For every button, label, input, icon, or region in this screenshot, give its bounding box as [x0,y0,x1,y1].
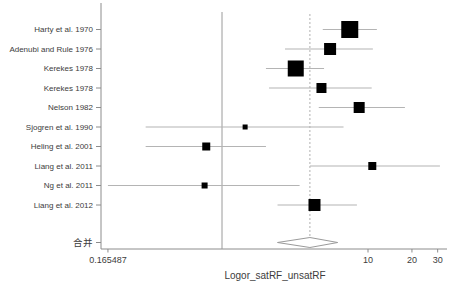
forest-plot-svg: 0.165487102030Logor_satRF_unsatRFHarty e… [0,0,454,286]
effect-size-square [341,21,358,38]
x-tick-label: 0.165487 [89,255,127,265]
study-label: Liang et al. 2011 [34,162,93,171]
x-tick-label: 20 [407,255,417,265]
study-label: Kerekes 1978 [44,64,94,73]
effect-size-square [368,162,376,170]
effect-size-square [316,83,326,93]
x-tick-label: 10 [363,255,373,265]
study-label: Heling et al. 2001 [31,142,94,151]
forest-plot: 0.165487102030Logor_satRF_unsatRFHarty e… [0,0,454,286]
effect-size-square [354,102,365,113]
effect-size-square [308,199,320,211]
study-label: Kerekes 1978 [44,84,94,93]
x-tick-label: 30 [433,255,443,265]
effect-size-square [202,183,208,189]
effect-size-square [288,61,304,77]
study-label: Liang et al. 2012 [34,201,94,210]
study-label: Nelson 1982 [48,103,93,112]
pooled-label: 合并 [73,237,93,248]
pooled-diamond [278,238,338,248]
effect-size-square [243,125,248,130]
study-label: Adenubi and Rule 1976 [9,45,93,54]
study-label: Harty et al. 1970 [34,25,93,34]
x-axis-title: Logor_satRF_unsatRF [224,270,325,281]
effect-size-square [324,43,336,55]
study-label: Ng et al. 2011 [44,181,94,190]
study-label: Sjogren et al. 1990 [26,123,94,132]
effect-size-square [202,143,210,151]
